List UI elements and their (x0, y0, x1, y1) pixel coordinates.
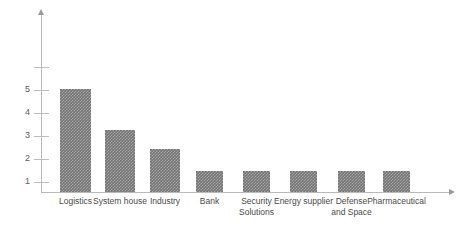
y-axis-tick-mark (34, 182, 49, 183)
y-axis-tick-mark (34, 90, 49, 91)
bar (105, 130, 135, 192)
y-axis-tick-mark (34, 113, 49, 114)
y-axis-arrow-icon (38, 9, 44, 15)
plot-area: 12345 LogisticsSystem houseIndustryBankS… (0, 0, 464, 231)
bar (150, 149, 180, 192)
x-axis-category-label: Pharmaceutical (361, 196, 433, 207)
bar (196, 171, 223, 192)
y-axis-tick-mark (34, 67, 49, 68)
bar (243, 171, 270, 192)
bar (290, 171, 317, 192)
y-axis-tick-mark (34, 136, 49, 137)
y-axis-tick-label: 4 (14, 108, 30, 117)
y-axis-tick-label: 5 (14, 85, 30, 94)
y-axis-tick-mark (34, 159, 49, 160)
x-axis-line (41, 192, 450, 193)
y-axis-tick-label: 1 (14, 177, 30, 186)
y-axis-tick-label: 2 (14, 154, 30, 163)
x-axis-arrow-icon (449, 189, 455, 195)
bar-chart: 12345 LogisticsSystem houseIndustryBankS… (0, 0, 464, 231)
bar (383, 171, 410, 192)
y-axis-tick-label: 3 (14, 131, 30, 140)
bar (338, 171, 365, 192)
y-axis-line (41, 13, 42, 193)
bar (60, 89, 91, 192)
